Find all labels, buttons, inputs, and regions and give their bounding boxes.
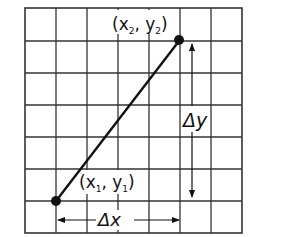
delta-y-label: Δy: [181, 109, 208, 131]
slope-diagram: (x2, y2) (x1, y1) Δy Δx: [0, 0, 282, 237]
delta-x-label: Δx: [96, 209, 121, 230]
point-2-dot: [174, 35, 184, 45]
point-1-dot: [51, 196, 61, 206]
